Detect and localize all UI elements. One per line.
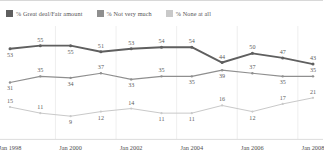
gridlines: [55, 26, 297, 139]
data-point[interactable]: [39, 75, 41, 77]
legend-label: % Not very much: [107, 10, 152, 17]
legend-item-none-at-all[interactable]: % None at all: [166, 10, 211, 17]
point-label: 53: [7, 52, 13, 58]
data-point[interactable]: [160, 46, 163, 49]
point-label: 50: [249, 44, 255, 50]
point-label: 35: [310, 67, 316, 73]
x-tick-label: Jan 2002: [120, 144, 143, 151]
data-point[interactable]: [251, 52, 254, 55]
data-point[interactable]: [69, 77, 71, 79]
point-label: 54: [158, 38, 164, 44]
square-swatch-icon: [166, 10, 173, 17]
point-label: 55: [68, 49, 74, 55]
point-label: 15: [7, 98, 13, 104]
x-tick-label: Jan 1998: [0, 144, 21, 151]
data-point[interactable]: [9, 106, 11, 108]
chart-legend: % Great deal/Fair amount % Not very much…: [0, 0, 323, 26]
data-point[interactable]: [191, 112, 193, 114]
point-label: 11: [159, 116, 165, 122]
data-point[interactable]: [190, 46, 193, 49]
point-label: 31: [7, 85, 13, 91]
data-point[interactable]: [221, 69, 223, 71]
point-label: 51: [98, 43, 104, 49]
data-point[interactable]: [312, 63, 315, 66]
x-axis-tick-labels: Jan 1998Jan 2000Jan 2002Jan 2004Jan 2006…: [0, 141, 323, 160]
point-label: 55: [37, 37, 43, 43]
legend-label: % None at all: [176, 10, 211, 17]
point-label: 9: [69, 119, 72, 125]
point-label: 53: [128, 40, 134, 46]
data-point[interactable]: [221, 104, 223, 106]
data-point[interactable]: [9, 81, 11, 83]
data-point[interactable]: [130, 78, 132, 80]
data-point[interactable]: [251, 72, 253, 74]
point-label: 17: [280, 95, 286, 101]
point-label: 12: [249, 115, 255, 121]
point-label: 11: [37, 104, 43, 110]
data-point[interactable]: [312, 75, 314, 77]
x-tick-label: Jan 2004: [181, 144, 204, 151]
data-point[interactable]: [70, 115, 72, 117]
square-swatch-icon: [6, 10, 13, 17]
data-point[interactable]: [160, 75, 162, 77]
data-point[interactable]: [100, 72, 102, 74]
point-label: 11: [189, 116, 195, 122]
point-label: 34: [68, 81, 74, 87]
legend-label: % Great deal/Fair amount: [16, 10, 83, 17]
point-label: 39: [219, 73, 225, 79]
point-labels-layer: 5355555153545444504743313534373335353937…: [7, 37, 316, 126]
data-point[interactable]: [160, 112, 162, 114]
data-point[interactable]: [312, 97, 314, 99]
point-label: 37: [98, 64, 104, 70]
data-point[interactable]: [100, 111, 102, 113]
point-label: 35: [280, 79, 286, 85]
point-label: 35: [37, 67, 43, 73]
point-label: 21: [310, 89, 316, 95]
plot-svg: 5355555153545444504743313534373335353937…: [0, 26, 323, 140]
point-label: 35: [158, 67, 164, 73]
point-label: 35: [189, 79, 195, 85]
data-point[interactable]: [130, 107, 132, 109]
point-label: 44: [219, 54, 225, 60]
x-tick-label: Jan 2008: [302, 144, 324, 151]
data-point[interactable]: [39, 112, 41, 114]
data-point[interactable]: [281, 56, 284, 59]
legend-item-not-very-much[interactable]: % Not very much: [97, 10, 152, 17]
data-point[interactable]: [39, 44, 42, 47]
data-point[interactable]: [251, 111, 253, 113]
data-point[interactable]: [130, 47, 133, 50]
legend-top-divider: [0, 0, 323, 1]
data-point[interactable]: [221, 61, 224, 64]
data-point[interactable]: [9, 47, 12, 50]
series-layer: [9, 44, 315, 117]
plot-area: 5355555153545444504743313534373335353937…: [0, 26, 323, 140]
point-label: 14: [128, 100, 134, 106]
point-label: 37: [249, 64, 255, 70]
x-tick-label: Jan 2000: [59, 144, 82, 151]
point-label: 16: [219, 96, 225, 102]
point-label: 33: [128, 82, 134, 88]
point-label: 12: [98, 115, 104, 121]
data-point[interactable]: [69, 44, 72, 47]
point-label: 54: [189, 38, 195, 44]
square-swatch-icon: [97, 10, 104, 17]
point-label: 43: [310, 55, 316, 61]
x-tick-label: Jan 2006: [241, 144, 264, 151]
data-point[interactable]: [282, 103, 284, 105]
point-label: 47: [280, 49, 286, 55]
data-point[interactable]: [99, 50, 102, 53]
legend-item-great-deal-fair-amount[interactable]: % Great deal/Fair amount: [6, 10, 83, 17]
data-point[interactable]: [191, 75, 193, 77]
data-point[interactable]: [282, 75, 284, 77]
